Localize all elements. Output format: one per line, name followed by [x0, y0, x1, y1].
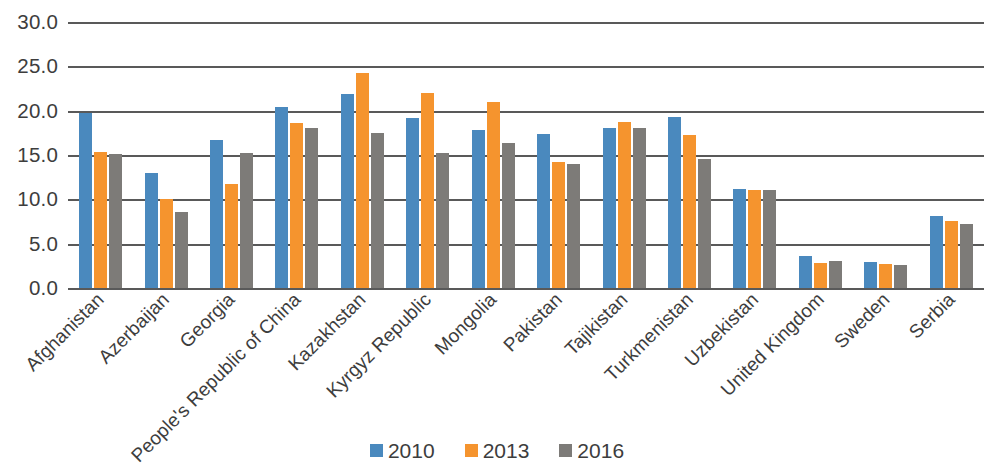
bar	[763, 190, 776, 288]
bar-group	[853, 22, 918, 288]
bar	[145, 173, 158, 288]
bar-group	[591, 22, 656, 288]
bar-group	[395, 22, 460, 288]
bar	[567, 164, 580, 288]
y-axis-tick-label: 10.0	[0, 189, 58, 210]
bar	[79, 113, 92, 288]
bar	[864, 262, 877, 288]
bar	[210, 140, 223, 288]
legend-item: 2013	[465, 440, 530, 461]
bar	[552, 162, 565, 288]
bar	[698, 159, 711, 288]
x-axis-tick-label: Afghanistan	[22, 289, 107, 374]
x-axis-tick-slot: Sweden	[853, 292, 918, 442]
bar	[618, 122, 631, 288]
bar	[436, 153, 449, 288]
bar-group	[133, 22, 198, 288]
bar	[472, 130, 485, 288]
legend-label: 2016	[577, 440, 624, 461]
legend-label: 2013	[483, 440, 530, 461]
bar	[894, 265, 907, 288]
bar	[799, 256, 812, 288]
bar-group	[199, 22, 264, 288]
bar	[341, 94, 354, 288]
bar	[930, 216, 943, 288]
legend-swatch-icon	[559, 444, 572, 457]
bar	[356, 73, 369, 288]
x-axis-tick-slot: Mongolia	[461, 292, 526, 442]
y-axis-tick-label: 0.0	[0, 278, 58, 299]
bar-group	[68, 22, 133, 288]
bar	[502, 143, 515, 288]
bar-group	[657, 22, 722, 288]
bar-chart: 30.025.020.015.010.05.00.0 AfghanistanAz…	[0, 0, 994, 471]
x-axis-tick-slot: Serbia	[918, 292, 983, 442]
bar	[225, 184, 238, 288]
legend-swatch-icon	[465, 444, 478, 457]
legend-swatch-icon	[370, 444, 383, 457]
y-axis-tick-label: 5.0	[0, 233, 58, 254]
bar	[94, 152, 107, 288]
chart-legend: 201020132016	[0, 440, 994, 461]
bar	[537, 134, 550, 288]
bar	[487, 102, 500, 288]
bar	[290, 123, 303, 288]
x-axis-tick-labels: AfghanistanAzerbaijanGeorgiaPeople's Rep…	[68, 292, 984, 442]
bar-group	[461, 22, 526, 288]
bar-group	[264, 22, 329, 288]
bar-groups	[68, 22, 984, 288]
plot-area	[68, 22, 984, 288]
bar	[240, 153, 253, 288]
bar	[733, 189, 746, 288]
bar	[668, 117, 681, 288]
bar	[603, 128, 616, 288]
bar	[305, 128, 318, 288]
bar-group	[526, 22, 591, 288]
bar-group	[918, 22, 983, 288]
bar-group	[722, 22, 787, 288]
x-axis-tick-slot: Afghanistan	[68, 292, 133, 442]
bar	[960, 224, 973, 288]
bar-group	[330, 22, 395, 288]
bar	[275, 107, 288, 288]
bar-group	[788, 22, 853, 288]
bar	[683, 135, 696, 288]
x-axis-tick-slot: United Kingdom	[788, 292, 853, 442]
bar	[160, 199, 173, 288]
legend-item: 2010	[370, 440, 435, 461]
bar	[748, 190, 761, 288]
bar	[879, 264, 892, 288]
gridline	[68, 288, 984, 290]
y-axis-tick-label: 20.0	[0, 100, 58, 121]
y-axis-tick-label: 30.0	[0, 12, 58, 33]
legend-label: 2010	[388, 440, 435, 461]
bar	[945, 221, 958, 288]
x-axis-tick-slot: Kyrgyz Republic	[395, 292, 460, 442]
bar	[406, 118, 419, 288]
bar	[633, 128, 646, 288]
x-axis-tick-slot: Pakistan	[526, 292, 591, 442]
legend-item: 2016	[559, 440, 624, 461]
bar	[109, 154, 122, 288]
bar	[175, 212, 188, 288]
y-axis-tick-label: 25.0	[0, 56, 58, 77]
bar	[371, 133, 384, 288]
bar	[814, 263, 827, 288]
bar	[421, 93, 434, 288]
y-axis-tick-label: 15.0	[0, 145, 58, 166]
bar	[829, 261, 842, 288]
x-axis-tick-slot: Turkmenistan	[657, 292, 722, 442]
